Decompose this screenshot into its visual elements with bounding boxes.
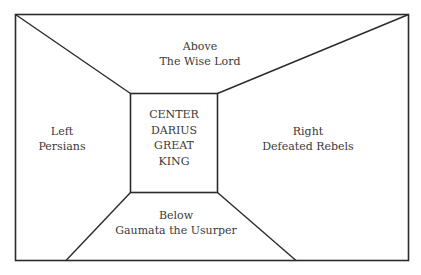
region-below-label: Below Gaumata the Usurper <box>115 208 236 238</box>
below-subtitle: Gaumata the Usurper <box>115 223 236 238</box>
right-title: Right <box>262 124 353 139</box>
left-subtitle: Persians <box>38 139 85 154</box>
left-title: Left <box>38 124 85 139</box>
right-subtitle: Defeated Rebels <box>262 139 353 154</box>
region-center-label: CENTER DARIUS GREAT KING <box>149 107 199 169</box>
center-line-1: CENTER <box>149 107 199 123</box>
region-above-label: Above The Wise Lord <box>160 39 241 69</box>
center-line-4: KING <box>149 154 199 170</box>
region-right-label: Right Defeated Rebels <box>262 124 353 154</box>
top-right-diagonal <box>218 15 409 94</box>
below-title: Below <box>115 208 236 223</box>
center-line-2: DARIUS <box>149 123 199 139</box>
above-subtitle: The Wise Lord <box>160 54 241 69</box>
center-line-3: GREAT <box>149 138 199 154</box>
above-title: Above <box>160 39 241 54</box>
region-left-label: Left Persians <box>38 124 85 154</box>
top-left-diagonal <box>16 15 131 94</box>
